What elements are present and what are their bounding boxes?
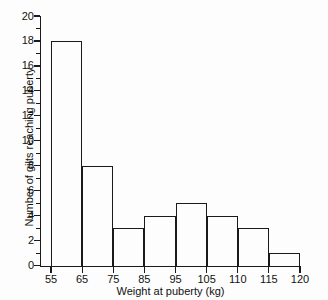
x-tick (144, 267, 145, 273)
y-minor-tick (36, 128, 40, 129)
y-tick-label: 20 (8, 11, 34, 22)
y-minor-tick (36, 153, 40, 154)
y-minor-tick (36, 178, 40, 179)
plot-area: 02468101214161820 5565758595105110115120… (0, 0, 328, 300)
histogram-bar (269, 253, 300, 265)
histogram-figure: 02468101214161820 5565758595105110115120… (0, 0, 328, 300)
x-tick (50, 267, 51, 273)
x-tick-label: 65 (65, 274, 99, 285)
y-minor-tick (36, 203, 40, 204)
x-tick (268, 267, 269, 273)
y-minor-tick (36, 103, 40, 104)
x-tick-label: 115 (252, 274, 286, 285)
y-minor-tick (36, 78, 40, 79)
histogram-bar (113, 228, 144, 265)
histogram-bar (51, 41, 82, 266)
y-minor-tick (36, 28, 40, 29)
histogram-bar (238, 228, 269, 265)
y-minor-tick (36, 253, 40, 254)
x-tick (82, 267, 83, 273)
x-tick (113, 267, 114, 273)
y-minor-tick (36, 228, 40, 229)
y-minor-tick (36, 53, 40, 54)
y-axis-title: Number of gilts reaching puberty (23, 42, 35, 252)
x-tick (237, 267, 238, 273)
histogram-bar (176, 203, 207, 265)
x-tick (299, 267, 300, 273)
x-axis-line (40, 266, 301, 267)
histogram-bar (82, 166, 113, 266)
x-tick-label: 95 (159, 274, 193, 285)
x-tick-label: 120 (283, 274, 317, 285)
y-axis-line (40, 16, 41, 267)
histogram-bar (207, 216, 238, 266)
y-tick (34, 265, 40, 266)
x-tick-label: 110 (221, 274, 255, 285)
x-tick-label: 55 (34, 274, 68, 285)
histogram-bar (144, 216, 175, 266)
y-tick (34, 15, 40, 16)
x-tick-label: 105 (190, 274, 224, 285)
x-axis-title: Weight at puberty (kg) (40, 285, 301, 297)
y-tick-label: 0 (8, 260, 34, 271)
x-tick-label: 85 (127, 274, 161, 285)
x-tick (206, 267, 207, 273)
x-tick-label: 75 (96, 274, 130, 285)
x-tick (175, 267, 176, 273)
